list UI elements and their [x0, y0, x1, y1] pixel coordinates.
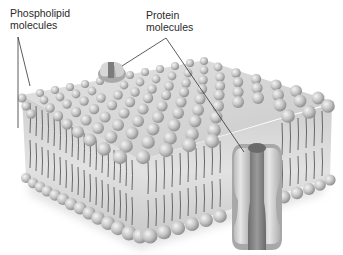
label-protein-molecules: Protein molecules — [146, 9, 193, 33]
small-protein — [98, 62, 126, 83]
leader-protein-1 — [122, 38, 166, 66]
membrane-diagram: Phospholipid molecules Protein molecules — [0, 0, 343, 255]
membrane-illustration — [0, 0, 343, 255]
label-phospholipid-molecules: Phospholipid molecules — [10, 7, 70, 31]
leader-phospholipid-2 — [18, 37, 30, 86]
channel-protein — [232, 143, 282, 250]
